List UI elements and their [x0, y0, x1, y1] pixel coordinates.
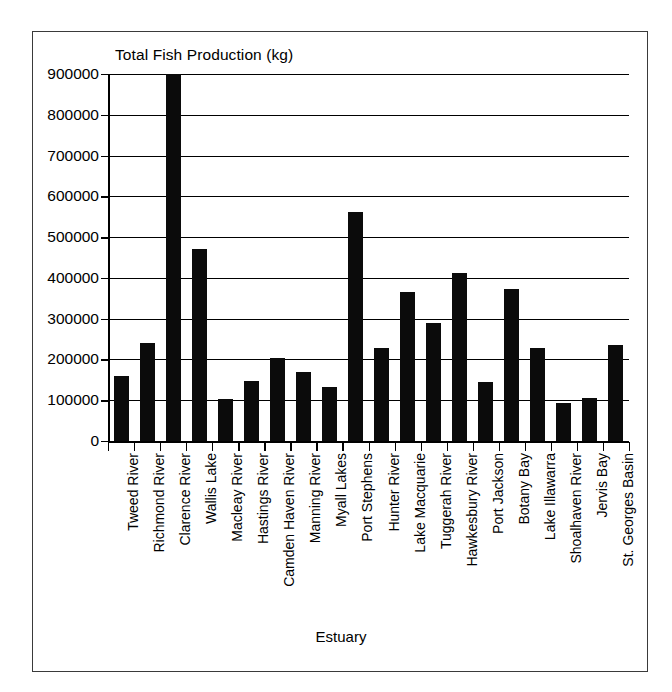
- x-axis-category-label: Manning River: [308, 453, 322, 543]
- x-axis-category-label: Myall Lakes: [334, 453, 348, 527]
- bar: [452, 273, 467, 441]
- y-axis-tick-mark: [101, 115, 109, 116]
- gridline: [108, 115, 629, 116]
- y-axis-tick-mark: [101, 237, 109, 238]
- plot-area: [108, 74, 629, 441]
- gridline: [108, 278, 629, 279]
- x-axis-tick-mark: [473, 442, 474, 451]
- x-axis-category-label: Jervis Bay: [595, 453, 609, 518]
- x-axis-category-label: Lake Illawarra: [543, 453, 557, 540]
- figure-frame: Total Fish Production (kg) 9000008000007…: [32, 31, 648, 672]
- chart-title: Total Fish Production (kg): [115, 46, 293, 64]
- bar: [348, 212, 363, 441]
- y-axis-tick-label: 100000: [47, 391, 99, 409]
- y-axis-tick-label: 600000: [47, 187, 99, 205]
- x-axis-category-label: St. Georges Basin: [621, 453, 635, 567]
- bar: [192, 249, 207, 441]
- bar: [530, 348, 545, 441]
- x-axis-category-label: Shoalhaven River: [569, 453, 583, 564]
- x-axis-tick-mark: [577, 442, 578, 451]
- x-axis-tick-mark: [238, 442, 239, 451]
- y-axis-tick-labels: 9000008000007000006000005000004000003000…: [33, 74, 99, 441]
- x-axis-tick-mark: [264, 442, 265, 451]
- x-axis-category-label: Macleay River: [230, 453, 244, 542]
- y-axis-tick-mark: [101, 400, 109, 401]
- y-axis-tick-mark: [101, 196, 109, 197]
- gridline: [108, 156, 629, 157]
- x-axis-tick-mark: [212, 442, 213, 451]
- bar: [582, 398, 597, 441]
- x-axis-category-label: Lake Macquarie: [413, 453, 427, 553]
- gridline: [108, 359, 629, 360]
- bar: [426, 323, 441, 441]
- x-axis-tick-mark: [342, 442, 343, 451]
- bar: [140, 343, 155, 441]
- x-axis-tick-mark: [525, 442, 526, 451]
- x-axis-category-label: Hawkesbury River: [465, 453, 479, 567]
- x-axis-category-label: Wallis Lake: [204, 453, 218, 524]
- x-axis-tick-mark: [499, 442, 500, 451]
- x-axis-category-label: Tweed River: [126, 453, 140, 531]
- y-axis-tick-mark: [101, 441, 109, 442]
- x-axis-category-label: Hastings River: [256, 453, 270, 544]
- bar: [322, 387, 337, 441]
- gridline: [108, 319, 629, 320]
- x-axis-tick-mark: [290, 442, 291, 451]
- x-axis-tick-mark: [316, 442, 317, 451]
- bar: [608, 345, 623, 441]
- x-axis-category-label: Botany Bay: [517, 453, 531, 525]
- bar: [114, 376, 129, 441]
- y-axis-tick-mark: [101, 359, 109, 360]
- y-axis-line: [108, 74, 110, 441]
- x-axis-tick-mark: [186, 442, 187, 451]
- bar: [244, 381, 259, 441]
- y-axis-tick-label: 700000: [47, 147, 99, 165]
- x-axis-tick-mark: [629, 442, 630, 451]
- x-axis-category-labels: Tweed RiverRichmond RiverClarence RiverW…: [108, 453, 629, 623]
- x-axis-title: Estuary: [33, 628, 649, 645]
- x-axis-tick-mark: [160, 442, 161, 451]
- x-axis-tick-mark: [421, 442, 422, 451]
- bar: [296, 372, 311, 441]
- bar: [478, 382, 493, 441]
- y-axis-tick-mark: [101, 74, 109, 75]
- x-axis-category-label: Hunter River: [387, 453, 401, 532]
- bar: [166, 74, 181, 441]
- gridline: [108, 237, 629, 238]
- bar: [504, 289, 519, 441]
- x-axis-category-label: Clarence River: [178, 453, 192, 546]
- x-axis-tick-mark: [369, 442, 370, 451]
- y-axis-tick-label: 200000: [47, 350, 99, 368]
- y-axis-tick-mark: [101, 278, 109, 279]
- x-axis-tick-mark: [134, 442, 135, 451]
- bar: [218, 399, 233, 441]
- y-axis-tick-label: 800000: [47, 106, 99, 124]
- gridline: [108, 74, 629, 75]
- y-axis-tick-label: 900000: [47, 65, 99, 83]
- bar: [556, 403, 571, 441]
- y-axis-tick-label: 0: [90, 432, 99, 450]
- x-axis-tick-mark: [551, 442, 552, 451]
- bar: [270, 358, 285, 441]
- x-axis-tick-mark: [108, 442, 109, 451]
- y-axis-tick-label: 400000: [47, 269, 99, 287]
- y-axis-tick-mark: [101, 319, 109, 320]
- x-axis-tick-mark: [603, 442, 604, 451]
- gridline: [108, 400, 629, 401]
- x-axis-category-label: Richmond River: [152, 453, 166, 553]
- x-axis-tick-mark: [395, 442, 396, 451]
- x-axis-tick-mark: [447, 442, 448, 451]
- bar: [374, 348, 389, 441]
- y-axis-tick-label: 500000: [47, 228, 99, 246]
- y-axis-tick-label: 300000: [47, 310, 99, 328]
- x-axis-category-label: Port Jackson: [491, 453, 505, 534]
- y-axis-tick-mark: [101, 156, 109, 157]
- x-axis-category-label: Port Stephens: [360, 453, 374, 542]
- x-axis-category-label: Tuggerah River: [439, 453, 453, 549]
- bar: [400, 292, 415, 441]
- x-axis-category-label: Camden Haven River: [282, 453, 296, 587]
- gridline: [108, 196, 629, 197]
